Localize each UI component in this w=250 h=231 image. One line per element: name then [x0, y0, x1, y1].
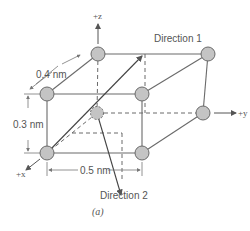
height-dimension-label: 0.3 nm [13, 119, 44, 130]
atom-back-top-left [91, 47, 105, 61]
unit-cell-diagram: +z +y +x Direction 1 Direction 2 0.4 nm … [0, 0, 250, 231]
z-axis-label: +z [93, 11, 102, 21]
atom-front-bottom-right [135, 146, 149, 160]
x-axis-label: +x [16, 169, 26, 179]
x-axis [26, 159, 40, 170]
atoms [40, 47, 215, 160]
atom-back-bottom-right [196, 106, 210, 120]
direction-1-label: Direction 1 [154, 33, 202, 44]
atom-front-bottom-left [40, 146, 54, 160]
depth-dimension-label: 0.4 nm [36, 69, 67, 80]
atom-front-top-right [135, 87, 149, 101]
direction-2-arrow [97, 113, 121, 195]
direction-2-label: Direction 2 [100, 190, 148, 201]
width-dimension-label: 0.5 nm [80, 165, 111, 176]
atom-back-top-right [201, 47, 215, 61]
atom-front-top-left [40, 87, 54, 101]
figure-caption: (a) [92, 206, 104, 218]
y-axis-label: +y [238, 108, 248, 118]
visible-edges [47, 54, 208, 153]
atom-back-bottom-left [91, 107, 104, 120]
